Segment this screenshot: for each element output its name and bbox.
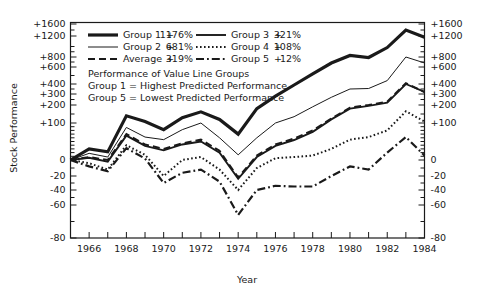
legend-label-group-3: Group 3 xyxy=(231,29,269,40)
y-tick-label-left: -40 xyxy=(50,184,66,195)
legend-value-group-4: 108% xyxy=(274,41,301,52)
x-tick-label: 1978 xyxy=(301,243,325,254)
annotation-line: Group 5 = Lowest Predicted Performance xyxy=(88,92,284,103)
annotation-line: Group 1 = Highest Predicted Performance xyxy=(88,80,287,91)
y-tick-label-right: 0 xyxy=(431,154,437,165)
x-tick-label: 1970 xyxy=(152,243,176,254)
y-tick-label-left: +1600 xyxy=(33,18,65,29)
y-tick-label-right: +200 xyxy=(431,99,457,110)
x-tick-label: 1984 xyxy=(412,243,436,254)
legend-label-average: Average xyxy=(123,53,162,64)
y-tick-label-right: -20 xyxy=(431,170,447,181)
y-tick-label-left: -80 xyxy=(50,232,66,243)
x-tick-label: 1982 xyxy=(375,243,399,254)
y-tick-label-left: -60 xyxy=(50,199,66,210)
legend-label-group-4: Group 4 xyxy=(231,41,269,52)
stock-performance-line-chart: Stock Performance +1600+1200+800+600+400… xyxy=(0,0,489,289)
x-tick-label: 1966 xyxy=(77,243,101,254)
y-tick-label-left: +300 xyxy=(39,88,65,99)
y-tick-label-right: -80 xyxy=(431,232,447,243)
y-tick-label-left: +600 xyxy=(39,61,65,72)
legend-value-group-5: 12% xyxy=(280,53,301,64)
legend-value-average: 319% xyxy=(166,53,193,64)
x-tick-label: 1976 xyxy=(263,243,287,254)
y-tick-label-right: -60 xyxy=(431,199,447,210)
annotation-line: Performance of Value Line Groups xyxy=(88,68,249,79)
y-tick-label-left: +100 xyxy=(39,117,65,128)
legend-value-group-2: 681% xyxy=(166,41,193,52)
x-tick-label: 1972 xyxy=(189,243,213,254)
y-tick-label-left: -20 xyxy=(50,170,66,181)
legend-value-group-3: 321% xyxy=(274,29,301,40)
y-tick-label-right: +100 xyxy=(431,117,457,128)
y-tick-label-left: +1200 xyxy=(33,30,65,41)
y-tick-label-right: -40 xyxy=(431,184,447,195)
legend-label-group-5: Group 5 xyxy=(231,53,269,64)
x-axis-title-text: Year xyxy=(236,274,257,285)
x-tick-label: 1980 xyxy=(338,243,362,254)
x-tick-label: 1968 xyxy=(114,243,138,254)
legend-label-group-2: Group 2 xyxy=(123,41,161,52)
y-tick-label-right: +1200 xyxy=(431,30,463,41)
y-tick-label-right: +1600 xyxy=(431,18,463,29)
legend-value-group-1: 1176% xyxy=(160,29,193,40)
y-tick-label-left: +200 xyxy=(39,99,65,110)
legend-label-group-1: Group 1 xyxy=(123,29,161,40)
x-tick-label: 1974 xyxy=(226,243,250,254)
y-axis-title-left: Stock Performance xyxy=(8,83,19,173)
y-tick-label-right: +600 xyxy=(431,61,457,72)
chart-container: Stock Performance +1600+1200+800+600+400… xyxy=(0,0,489,289)
y-axis-title-text: Stock Performance xyxy=(8,83,19,173)
y-tick-label-left: 0 xyxy=(59,154,65,165)
y-tick-label-right: +300 xyxy=(431,88,457,99)
